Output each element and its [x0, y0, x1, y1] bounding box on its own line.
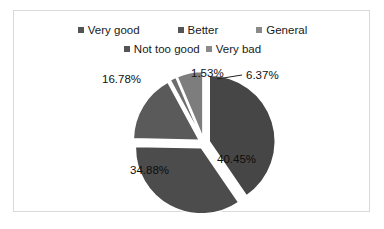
- data-label-very-good: 40.45%: [217, 153, 256, 165]
- data-label-general: 16.78%: [102, 73, 141, 85]
- pie-slices: [133, 72, 275, 213]
- pie-plot-area: 40.45% 34.88% 16.78% 1.53% 6.37%: [14, 11, 371, 213]
- pie-chart-svg: [14, 11, 371, 213]
- data-label-better: 34.88%: [130, 164, 169, 176]
- data-label-very-bad: 6.37%: [246, 69, 279, 81]
- chart-frame: Very good Better General Not too good Ve…: [13, 10, 370, 212]
- data-label-not-too-good: 1.53%: [191, 67, 224, 79]
